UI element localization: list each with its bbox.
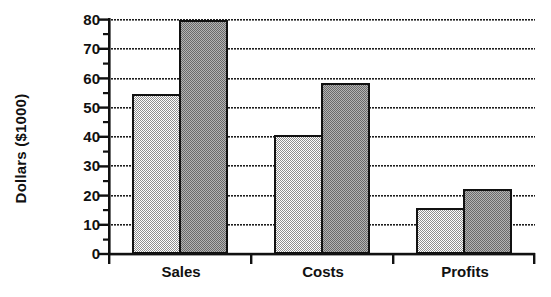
plot-area [0, 0, 551, 297]
bar-chart: Dollars ($1000) 80 70 60 50 40 30 20 10 … [0, 0, 551, 297]
bar-sales-series-1 [133, 95, 180, 253]
bar-costs-series-2 [322, 84, 369, 253]
bar-sales-series-2 [180, 21, 227, 253]
bar-profits-series-1 [417, 209, 464, 253]
bar-costs-series-1 [275, 136, 322, 253]
bar-group-profits [417, 190, 511, 253]
bar-group-sales [133, 21, 227, 253]
x-cat-label-sales: Sales [110, 262, 252, 288]
bar-group-costs [275, 84, 369, 253]
x-cat-label-costs: Costs [252, 262, 394, 288]
x-axis-category-labels: Sales Costs Profits [110, 262, 536, 288]
y-axis [99, 18, 111, 255]
bar-profits-series-2 [464, 190, 511, 253]
x-cat-label-profits: Profits [394, 262, 536, 288]
